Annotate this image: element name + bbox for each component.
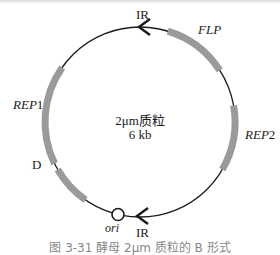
flp-label: FLP [198,23,221,36]
flp-gene-segment [168,31,220,70]
ir-top-label: IR [136,8,149,21]
ori-label: ori [105,222,119,234]
d-label: D [32,158,41,171]
plasmid-size: 6 kb [0,127,280,143]
figure-caption: 图 3-31 酵母 2μm 质粒的 B 形式 [0,238,280,255]
ir-bottom-arrow-icon [137,208,148,224]
ori-origin-icon [112,209,124,221]
d-gene-segment [58,170,86,200]
